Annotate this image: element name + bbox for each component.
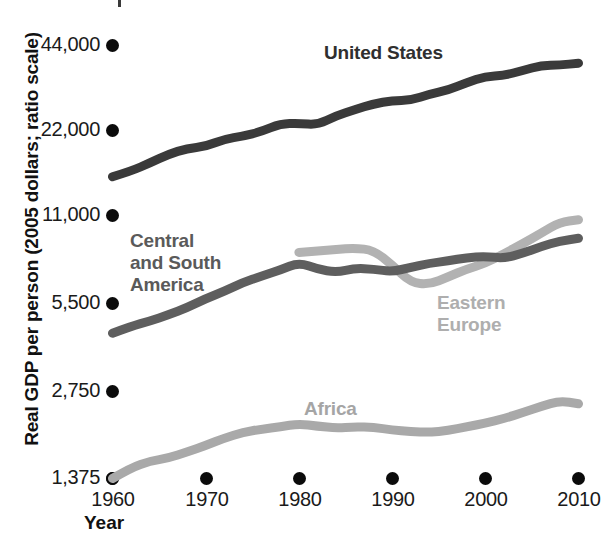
line-africa bbox=[113, 402, 579, 479]
line-united-states bbox=[113, 63, 579, 177]
